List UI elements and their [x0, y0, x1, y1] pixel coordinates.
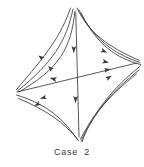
curve-top-right-mid: [79, 10, 140, 63]
vertical-trajectory-line: [76, 13, 79, 137]
figure-container: Case 2: [0, 0, 144, 167]
curve-right-bottom-mid: [81, 70, 139, 141]
arrow-upper-right-b: [102, 59, 109, 65]
curve-right-bottom-inner: [82, 74, 137, 142]
flow-direction-arrows: [33, 46, 113, 108]
arrow-lower-left-a: [39, 95, 47, 101]
phase-portrait-diagram: [0, 0, 144, 167]
figure-caption: Case 2: [0, 147, 144, 157]
arrow-upper-right-a: [100, 48, 108, 55]
arrow-upper-left-b: [46, 64, 54, 72]
arrow-vertical-lower: [73, 96, 78, 103]
curve-top-left-outer: [17, 8, 71, 90]
curve-left-bottom-inner: [19, 99, 79, 141]
arrow-diagonal-left: [49, 76, 57, 82]
straight-trajectories: [17, 13, 137, 137]
curve-top-right-outer: [77, 8, 140, 61]
arrow-vertical-upper: [71, 46, 76, 53]
arrow-lower-right: [105, 74, 113, 81]
